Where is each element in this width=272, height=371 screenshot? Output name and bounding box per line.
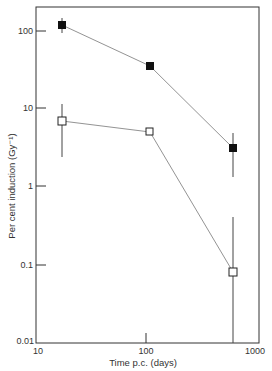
x-tick-label: 10 xyxy=(33,346,43,356)
y-axis-label: Per cent induction (Gy⁻¹) xyxy=(6,133,17,238)
chart: 100 10 1 0.1 0.01 Per cent induction (Gy… xyxy=(0,0,272,371)
y-tick-label: 0.01 xyxy=(16,336,34,346)
y-tick-label: 10 xyxy=(23,103,33,113)
y-axis: 100 10 1 0.1 0.01 Per cent induction (Gy… xyxy=(6,26,46,346)
data-point-filled xyxy=(229,144,237,152)
y-tick-label: 0.1 xyxy=(20,260,33,270)
data-point-open xyxy=(146,128,153,135)
series-filled xyxy=(58,18,237,177)
data-point-filled xyxy=(58,21,66,29)
series-line xyxy=(62,121,233,272)
data-point-open xyxy=(229,268,237,276)
x-axis: 10 100 1000 Time p.c. (days) xyxy=(33,333,265,368)
series-open xyxy=(58,104,237,343)
x-tick-label: 1000 xyxy=(245,346,265,356)
plot-frame xyxy=(36,7,259,343)
data-point-open xyxy=(58,117,66,125)
x-tick-label: 100 xyxy=(138,346,153,356)
y-tick-label: 1 xyxy=(28,181,33,191)
data-point-filled xyxy=(146,62,154,70)
y-tick-label: 100 xyxy=(18,26,33,36)
x-axis-label: Time p.c. (days) xyxy=(109,357,177,368)
